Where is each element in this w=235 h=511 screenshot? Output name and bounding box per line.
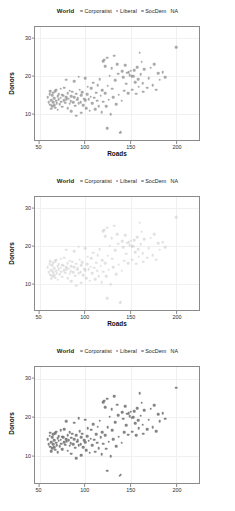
data-point	[151, 426, 154, 429]
x-axis-tick-mark	[130, 141, 131, 144]
data-point	[151, 84, 154, 87]
data-point	[82, 104, 85, 107]
scatter-figure: WorldCorporatistLiberalSocDemNADonors102…	[0, 0, 235, 511]
data-point	[79, 271, 82, 274]
data-point	[138, 427, 141, 430]
data-point	[97, 84, 100, 87]
x-axis-tick: 100	[80, 141, 89, 150]
legend-swatch-icon	[80, 180, 83, 183]
data-point	[80, 94, 83, 97]
legend-item-na[interactable]: NA	[170, 348, 178, 354]
data-point	[115, 273, 118, 276]
data-point	[99, 436, 102, 439]
gridline-horizontal	[35, 284, 199, 285]
data-point	[70, 110, 73, 113]
data-point	[80, 454, 83, 457]
data-point	[79, 101, 82, 104]
data-point	[97, 447, 100, 450]
data-point	[124, 405, 127, 408]
data-point	[92, 423, 95, 426]
data-point	[88, 109, 91, 112]
legend-item-socdem[interactable]: SocDem	[141, 8, 166, 14]
data-point	[139, 243, 142, 246]
data-point	[80, 436, 83, 439]
data-point	[155, 88, 158, 91]
data-point	[97, 425, 100, 428]
gridline-vertical	[176, 197, 177, 310]
gridline-horizontal	[35, 114, 199, 115]
data-point	[100, 453, 103, 456]
x-axis-tick-mark	[177, 141, 178, 144]
data-point	[93, 438, 96, 441]
data-point	[143, 68, 146, 71]
data-point	[107, 84, 110, 87]
data-point	[127, 92, 130, 95]
data-point	[157, 242, 160, 245]
data-point	[46, 266, 49, 269]
data-point	[136, 236, 139, 239]
legend-item-corporatist[interactable]: Corporatist	[80, 8, 112, 14]
data-point	[55, 89, 58, 92]
data-point	[107, 254, 110, 257]
legend-item-socdem[interactable]: SocDem	[141, 348, 166, 354]
data-point	[104, 262, 107, 265]
data-point	[68, 273, 71, 276]
data-point	[82, 446, 85, 449]
data-point	[104, 235, 107, 238]
data-point	[105, 105, 108, 108]
data-point	[85, 277, 88, 280]
legend-item-na[interactable]: NA	[170, 178, 178, 184]
data-point	[84, 441, 87, 444]
data-point	[149, 407, 152, 410]
y-axis-tick-label: 30	[25, 35, 31, 41]
legend-item-liberal[interactable]: Liberal	[116, 348, 137, 354]
data-point	[59, 87, 62, 90]
data-point	[96, 441, 99, 444]
y-axis-tick-mark	[32, 207, 35, 208]
plot-frame	[34, 196, 200, 311]
plot-frame	[34, 366, 200, 484]
data-point	[149, 236, 152, 239]
data-point	[159, 248, 162, 251]
data-point	[161, 241, 164, 244]
data-point	[59, 429, 62, 432]
data-point	[106, 57, 109, 60]
legend-item-corporatist[interactable]: Corporatist	[80, 348, 112, 354]
data-point	[138, 392, 141, 395]
data-point	[63, 86, 66, 89]
data-point	[120, 441, 123, 444]
data-point	[91, 272, 94, 275]
legend-item-socdem[interactable]: SocDem	[141, 178, 166, 184]
data-point	[64, 271, 67, 274]
data-point	[137, 78, 140, 81]
data-point	[46, 438, 49, 441]
legend-item-label: Corporatist	[84, 178, 111, 184]
legend-item-liberal[interactable]: Liberal	[116, 178, 137, 184]
data-point	[72, 101, 75, 104]
data-point	[61, 448, 64, 451]
data-point	[95, 433, 98, 436]
legend-item-liberal[interactable]: Liberal	[116, 8, 137, 14]
x-axis-tick: 50	[36, 484, 42, 493]
data-point	[143, 238, 146, 241]
gridline-vertical	[131, 367, 132, 483]
data-point	[68, 445, 71, 448]
data-point	[56, 109, 59, 112]
legend-swatch-icon	[116, 10, 119, 13]
x-axis-tick-mark	[38, 311, 39, 314]
data-point	[98, 78, 101, 81]
legend-item-corporatist[interactable]: Corporatist	[80, 178, 112, 184]
data-point	[79, 443, 82, 446]
data-point	[67, 107, 70, 110]
data-point	[71, 90, 74, 93]
data-point	[74, 274, 77, 277]
data-point	[56, 451, 59, 454]
legend-item-na[interactable]: NA	[170, 8, 178, 14]
data-point	[75, 115, 78, 118]
y-axis-tick-label: 10	[25, 453, 31, 459]
y-axis-tick: 30	[25, 205, 34, 211]
data-point	[131, 430, 134, 433]
data-point	[107, 426, 110, 429]
y-axis-tick: 20	[25, 73, 34, 79]
data-point	[161, 71, 164, 74]
